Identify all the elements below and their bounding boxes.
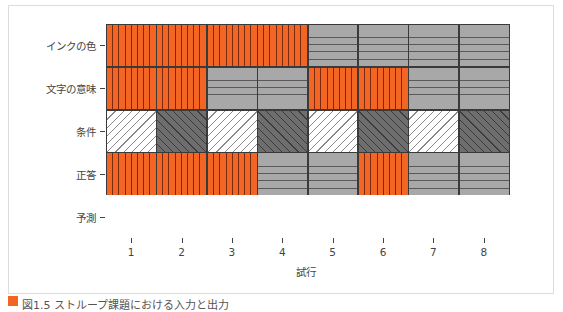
y-tick-mark <box>100 217 105 218</box>
cell-orange-vertical <box>308 67 359 110</box>
cell-gray-horizontal <box>459 67 510 110</box>
cell-empty <box>207 195 258 238</box>
x-tick-mark <box>383 238 384 243</box>
cell-gray-horizontal <box>257 152 308 195</box>
cell-darkgray-diagonal <box>156 110 207 153</box>
x-tick-label: 2 <box>172 246 192 258</box>
x-tick-mark <box>232 238 233 243</box>
cell-orange-vertical <box>156 24 207 67</box>
x-tick-label: 6 <box>373 246 393 258</box>
cell-white-diagonal <box>408 110 459 153</box>
cell-white-diagonal <box>308 110 359 153</box>
x-tick-label: 3 <box>222 246 242 258</box>
cell-orange-vertical <box>207 24 258 67</box>
cell-empty <box>358 195 409 238</box>
x-tick-label: 8 <box>474 246 494 258</box>
cell-empty <box>408 195 459 238</box>
cell-orange-vertical <box>156 67 207 110</box>
y-tick-label: 文字の意味 <box>16 81 96 96</box>
cell-gray-horizontal <box>308 152 359 195</box>
x-tick-mark <box>484 238 485 243</box>
x-tick-mark <box>282 238 283 243</box>
cell-darkgray-diagonal <box>257 110 308 153</box>
figure-caption: 図1.5 ストループ課題における入力と出力 <box>8 296 229 302</box>
y-tick-mark <box>100 88 105 89</box>
cell-gray-horizontal <box>459 152 510 195</box>
x-tick-label: 5 <box>323 246 343 258</box>
cell-gray-horizontal <box>358 24 409 67</box>
y-tick-label: 予測 <box>16 210 96 225</box>
cell-empty <box>308 195 359 238</box>
cell-gray-horizontal <box>408 152 459 195</box>
cell-gray-horizontal <box>207 67 258 110</box>
x-axis-title: 試行 <box>296 264 316 279</box>
cell-orange-vertical <box>106 67 157 110</box>
cell-gray-horizontal <box>408 67 459 110</box>
cell-orange-vertical <box>358 152 409 195</box>
cell-darkgray-diagonal <box>459 110 510 153</box>
y-tick-label: 条件 <box>16 124 96 139</box>
cell-gray-horizontal <box>257 67 308 110</box>
y-tick-mark <box>100 131 105 132</box>
cell-gray-horizontal <box>459 24 510 67</box>
cell-orange-vertical <box>207 152 258 195</box>
x-tick-label: 4 <box>272 246 292 258</box>
x-tick-mark <box>333 238 334 243</box>
x-tick-label: 7 <box>423 246 443 258</box>
cell-orange-vertical <box>358 67 409 110</box>
x-tick-mark <box>131 238 132 243</box>
x-tick-mark <box>182 238 183 243</box>
cell-empty <box>156 195 207 238</box>
cell-white-diagonal <box>106 110 157 153</box>
y-tick-mark <box>100 45 105 46</box>
y-tick-label: 正答 <box>16 167 96 182</box>
cell-orange-vertical <box>156 152 207 195</box>
cell-gray-horizontal <box>408 24 459 67</box>
y-tick-mark <box>100 174 105 175</box>
x-tick-mark <box>433 238 434 243</box>
cell-orange-vertical <box>106 152 157 195</box>
cell-empty <box>257 195 308 238</box>
y-tick-label: インクの色 <box>16 38 96 53</box>
plot-area <box>106 24 509 238</box>
cell-white-diagonal <box>207 110 258 153</box>
caption-text: 図1.5 ストループ課題における入力と出力 <box>22 299 229 312</box>
cell-darkgray-diagonal <box>358 110 409 153</box>
cell-orange-vertical <box>257 24 308 67</box>
cell-empty <box>459 195 510 238</box>
cell-gray-horizontal <box>308 24 359 67</box>
caption-marker-icon <box>8 296 18 306</box>
cell-empty <box>106 195 157 238</box>
cell-orange-vertical <box>106 24 157 67</box>
x-tick-label: 1 <box>121 246 141 258</box>
